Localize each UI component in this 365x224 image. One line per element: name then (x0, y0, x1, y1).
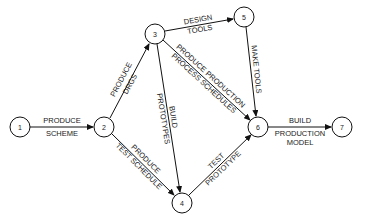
node-5-label: 5 (242, 14, 246, 21)
edge-6-7-label-bottom: MODEL (287, 138, 314, 147)
node-3-label: 3 (153, 31, 157, 38)
edge-1-2-label-bottom: SCHEME (46, 129, 78, 138)
edge-3-6-label-top: PRODUCE PRODUCTION (174, 42, 246, 109)
diagram-svg: 1 2 3 4 5 6 7 PRODUCE SCHEME PRODUCE DRG… (0, 0, 365, 224)
node-7-label: 7 (340, 124, 344, 131)
edge-6-7-label-middle: PRODUCTION (275, 129, 325, 138)
node-6-label: 6 (256, 124, 260, 131)
network-diagram: 1 2 3 4 5 6 7 PRODUCE SCHEME PRODUCE DRG… (0, 0, 365, 224)
edge-5-6-label: MAKE TOOLS (249, 45, 263, 94)
node-2-label: 2 (102, 124, 106, 131)
edge-1-2-label-top: PRODUCE (43, 116, 81, 125)
edge-6-7-label-top: BUILD (289, 116, 312, 125)
node-4-label: 4 (180, 200, 184, 207)
node-1-label: 1 (18, 124, 22, 131)
edge-3-6-label-bottom: PROCESS SCHEDULES (170, 51, 238, 115)
